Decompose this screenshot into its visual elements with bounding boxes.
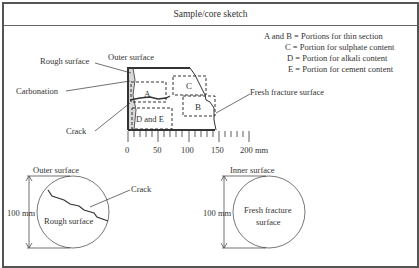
outer-view-dimension: 100 mm [7, 208, 35, 218]
scale-ruler [128, 131, 249, 142]
scale-tick-100: 100 [181, 145, 194, 155]
outer-crack-label: Crack [131, 184, 152, 194]
rough-surface-label: Rough surface [40, 56, 90, 66]
inner-view-title: Inner surface [230, 165, 275, 175]
outer-surface-view: Outer surface 100 mm Crack Rough surface [7, 165, 152, 248]
inner-center-label-1: Fresh fracture [244, 205, 292, 215]
scale-tick-200: 200 mm [240, 145, 268, 155]
outer-surface-circle [37, 176, 109, 248]
crack-label: Crack [66, 126, 87, 136]
legend-item-e: E = Portion for cement content [288, 64, 394, 74]
carbonation-label: Carbonation [16, 86, 59, 96]
portion-b-label: B [195, 102, 201, 112]
scale-tick-0: 0 [125, 145, 129, 155]
outer-center-label: Rough surface [44, 216, 94, 226]
portion-c-label: C [186, 81, 192, 91]
inner-surface-view: Inner surface 100 mm Fresh fracture surf… [203, 165, 305, 248]
portion-a-label: A [144, 89, 151, 99]
outer-view-title: Outer surface [33, 165, 79, 175]
portion-de-label: D and E [136, 114, 164, 124]
outer-surface-label: Outer surface [108, 52, 154, 62]
inner-center-label-2: surface [256, 217, 281, 227]
legend-item-c: C = Portion for sulphate content [285, 42, 395, 52]
legend: A and B = Portions for thin section C = … [264, 31, 395, 74]
scale-tick-50: 50 [153, 145, 162, 155]
legend-item-ab: A and B = Portions for thin section [264, 31, 384, 41]
sketch-canvas: A C B D and E Outer surface Rough surfac… [0, 0, 419, 268]
scale-tick-150: 150 [211, 145, 224, 155]
legend-item-d: D = Portion for alkali content [287, 53, 388, 63]
fresh-fracture-label: Fresh fracture surface [250, 87, 324, 97]
inner-view-dimension: 100 mm [203, 208, 231, 218]
